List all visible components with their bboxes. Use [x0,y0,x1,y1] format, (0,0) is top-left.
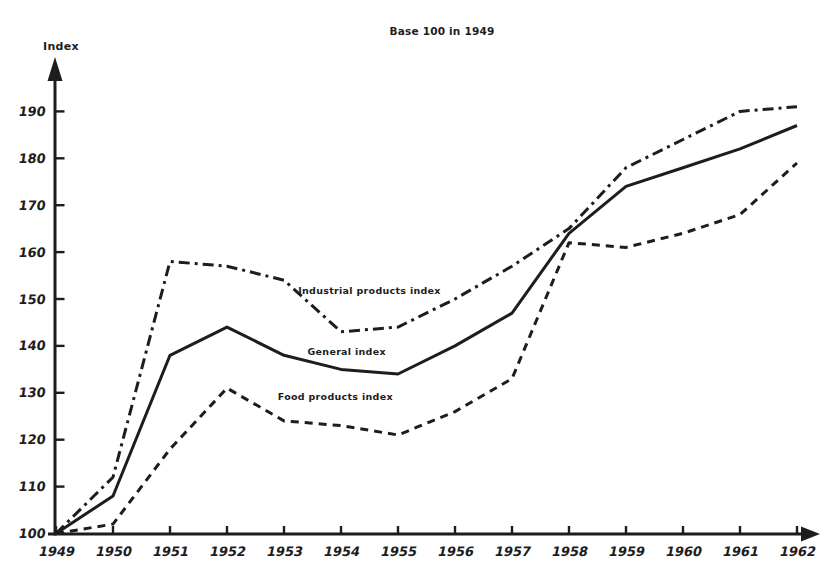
y-tick-label: 130 [17,385,46,400]
x-tick-label: 1961 [721,544,760,559]
x-tick-label: 1959 [607,544,646,559]
x-axis-arrow-icon [801,527,820,542]
y-tick-label: 140 [17,338,46,353]
x-tick-label: 1949 [37,544,76,559]
x-tick-label: 1951 [151,544,190,559]
x-tick-label: 1953 [265,544,304,559]
series-line-food-products-index [56,163,797,534]
chart-canvas: 1001101201301401501601701801901949195019… [0,0,838,577]
y-axis-arrow-icon [48,57,63,81]
series-label-food-products-index: Food products index [278,391,393,402]
x-tick-label: 1957 [493,544,532,559]
y-tick-label: 190 [17,104,46,119]
y-tick-label: 100 [17,526,46,541]
y-tick-label: 180 [17,151,46,166]
price-index-chart: Base 100 in 1949 Index 10011012013014015… [0,0,838,577]
x-tick-label: 1958 [550,544,589,559]
x-tick-label: 1956 [436,544,475,559]
series-label-industrial-products-index: Industrial products index [298,285,441,296]
series-line-general-index [56,126,797,534]
x-tick-label: 1960 [664,544,703,559]
x-tick-label: 1952 [208,544,247,559]
y-tick-label: 150 [17,292,46,307]
series-label-general-index: General index [307,346,385,357]
series-line-industrial-products-index [56,107,797,534]
y-tick-label: 120 [17,432,46,447]
x-tick-label: 1954 [322,544,361,559]
x-tick-label: 1962 [778,544,817,559]
y-tick-label: 110 [17,479,46,494]
x-tick-label: 1955 [379,544,418,559]
y-tick-label: 160 [17,245,46,260]
y-tick-label: 170 [17,198,46,213]
x-tick-label: 1950 [94,544,133,559]
